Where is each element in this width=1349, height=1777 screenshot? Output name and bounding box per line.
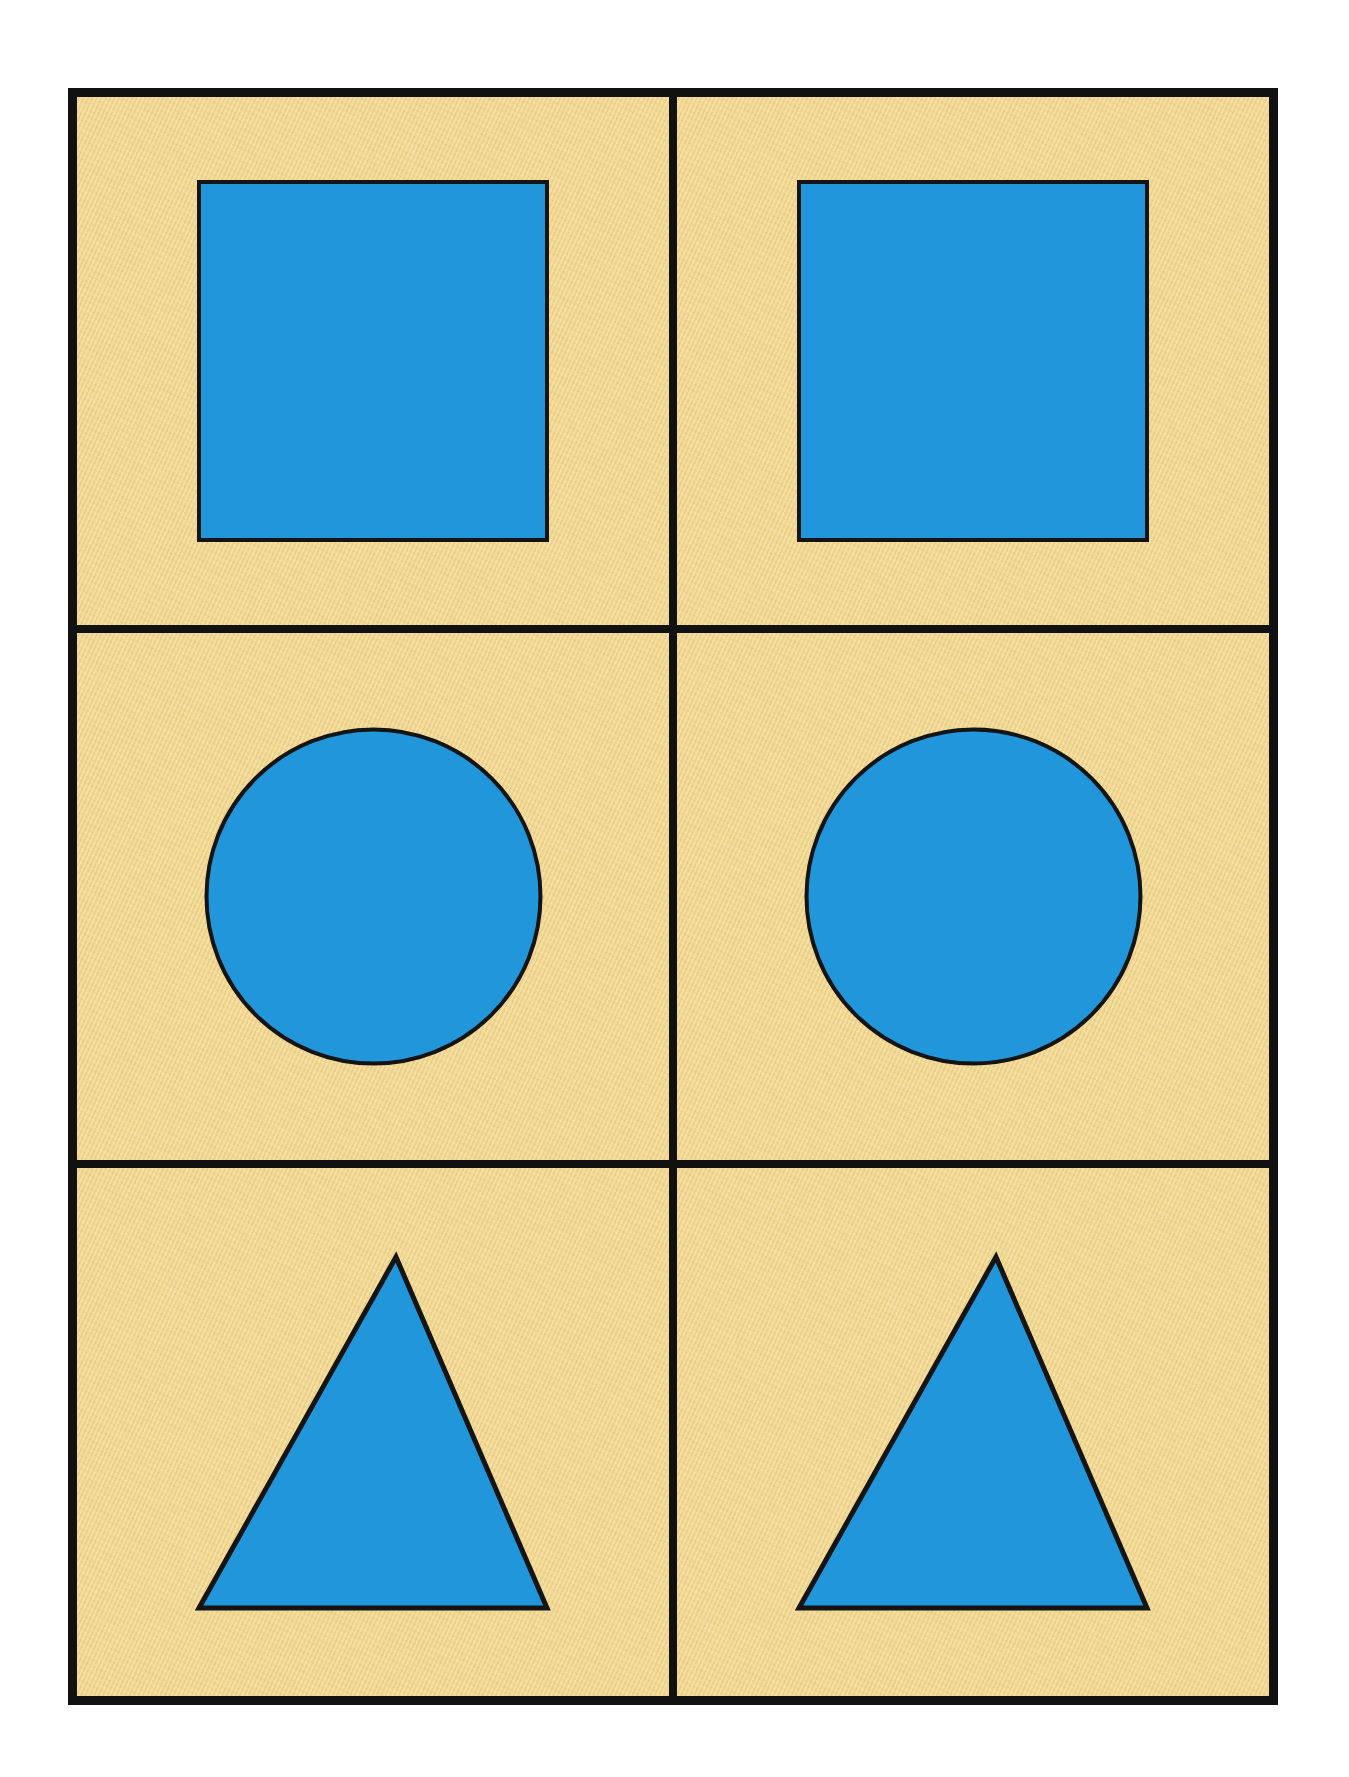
shape-holder [77, 1168, 669, 1696]
square-icon[interactable] [197, 180, 549, 542]
grid-cell-r1c1[interactable] [77, 97, 669, 625]
square-shape [799, 182, 1147, 540]
triangle-icon[interactable] [196, 1254, 550, 1611]
grid-cell-r2c2[interactable] [677, 633, 1269, 1161]
square-icon[interactable] [797, 180, 1149, 542]
shape-holder [77, 633, 669, 1161]
triangle-shape [199, 1257, 547, 1608]
triangle-shape [799, 1257, 1147, 1608]
circle-shape [806, 729, 1140, 1063]
shape-holder [677, 633, 1269, 1161]
grid-cell-r3c1[interactable] [77, 1168, 669, 1696]
shape-holder [677, 97, 1269, 625]
circle-shape [206, 729, 540, 1063]
circle-icon[interactable] [804, 727, 1143, 1066]
grid-cell-r1c2[interactable] [677, 97, 1269, 625]
shape-holder [77, 97, 669, 625]
grid-cell-r2c1[interactable] [77, 633, 669, 1161]
shape-grid [68, 88, 1278, 1705]
triangle-icon[interactable] [796, 1254, 1150, 1611]
grid-cell-r3c2[interactable] [677, 1168, 1269, 1696]
shape-holder [677, 1168, 1269, 1696]
square-shape [199, 182, 547, 540]
circle-icon[interactable] [204, 727, 543, 1066]
